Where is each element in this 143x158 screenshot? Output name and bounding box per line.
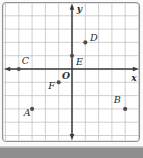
x-axis-label: x bbox=[130, 72, 137, 83]
data-point-F bbox=[57, 80, 61, 84]
data-point-B bbox=[123, 107, 127, 111]
point-label-A: A bbox=[23, 107, 31, 118]
point-label-F: F bbox=[47, 80, 55, 91]
figure-canvas: y x O ABCDEF bbox=[0, 0, 143, 158]
point-label-C: C bbox=[22, 55, 30, 66]
bottom-strip bbox=[0, 148, 143, 158]
point-label-B: B bbox=[113, 94, 121, 105]
data-point-A bbox=[30, 107, 34, 111]
data-point-D bbox=[83, 40, 87, 44]
coordinate-plane: y x O ABCDEF bbox=[0, 0, 143, 158]
bottom-strip-edge bbox=[0, 146, 143, 147]
data-point-E bbox=[70, 54, 74, 58]
data-point-C bbox=[17, 67, 21, 71]
graph-panel bbox=[3, 3, 140, 142]
point-label-D: D bbox=[89, 32, 98, 43]
y-axis-label: y bbox=[76, 3, 83, 14]
point-label-E: E bbox=[75, 56, 83, 67]
origin-label: O bbox=[62, 70, 70, 81]
